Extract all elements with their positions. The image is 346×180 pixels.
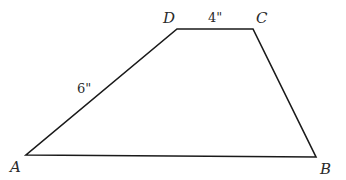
- vertex-label-a: A: [8, 158, 21, 176]
- vertex-label-d: D: [162, 9, 175, 27]
- trapezoid-diagram: A B C D 4" 6": [0, 0, 346, 180]
- vertex-label-b: B: [319, 160, 331, 178]
- measurement-ad: 6": [77, 81, 91, 96]
- trapezoid-shape: [26, 29, 316, 157]
- vertex-label-c: C: [256, 9, 268, 27]
- measurement-dc: 4": [208, 10, 222, 25]
